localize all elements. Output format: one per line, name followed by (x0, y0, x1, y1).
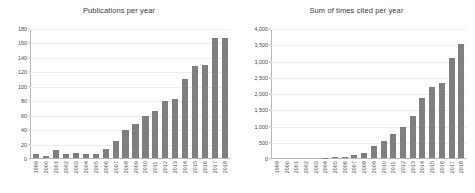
x-tick-slot: 2008 (359, 159, 369, 173)
x-axis-tick-label: 2007 (351, 161, 357, 173)
x-axis-tick-label: 2013 (410, 161, 416, 173)
citations-per-year-panel: Sum of times cited per year 05001,0001,5… (238, 0, 475, 193)
y-axis-tick-mark (269, 45, 271, 46)
publications-bar-series (31, 29, 230, 158)
publications-per-year-panel: Publications per year 020406080100120140… (0, 0, 238, 193)
x-tick-slot: 2017 (210, 159, 220, 173)
y-axis-tick-mark (269, 159, 271, 160)
bar-slot (170, 29, 180, 158)
bar (429, 87, 435, 158)
citations-x-tick-labels: 1999200020012002200320042005200620072008… (272, 159, 466, 173)
x-axis-tick-label: 2008 (123, 161, 129, 173)
bar-slot (180, 29, 190, 158)
bar-slot (359, 29, 369, 158)
x-axis-tick-label: 2000 (43, 161, 49, 173)
x-axis-tick-label: 2003 (73, 161, 79, 173)
bar (53, 150, 59, 158)
x-axis-tick-label: 2000 (284, 161, 290, 173)
x-tick-slot: 2010 (379, 159, 389, 173)
bar (63, 154, 69, 158)
x-tick-slot: 2006 (340, 159, 350, 173)
x-tick-slot: 2017 (447, 159, 457, 173)
bar-slot (350, 29, 360, 158)
x-tick-slot: 2009 (369, 159, 379, 173)
bar (202, 65, 208, 158)
x-tick-slot: 2005 (330, 159, 340, 173)
x-tick-slot: 2002 (61, 159, 71, 173)
x-tick-slot: 2009 (131, 159, 141, 173)
x-axis-tick-label: 2011 (390, 161, 396, 173)
x-axis-tick-label: 2016 (202, 161, 208, 173)
x-tick-slot: 2012 (160, 159, 170, 173)
bar (113, 141, 119, 158)
x-tick-slot: 2007 (111, 159, 121, 173)
bar (73, 153, 79, 158)
y-axis-tick-mark (269, 29, 271, 30)
y-axis-tick-mark (28, 86, 30, 87)
bar (132, 124, 138, 158)
y-axis-tick-mark (269, 77, 271, 78)
publications-chart-title: Publications per year (0, 6, 238, 15)
bar (83, 154, 89, 158)
bar-slot (220, 29, 230, 158)
bar-slot (379, 29, 389, 158)
bar (351, 155, 357, 158)
bar-slot (408, 29, 418, 158)
bar-slot (272, 29, 282, 158)
bar (371, 146, 377, 158)
x-axis-tick-label: 1999 (33, 161, 39, 173)
bar (152, 111, 158, 158)
x-tick-slot: 2004 (321, 159, 331, 173)
y-axis-tick-mark (269, 94, 271, 95)
bar-slot (447, 29, 457, 158)
bar-slot (121, 29, 131, 158)
bar-slot (340, 29, 350, 158)
bar-slot (160, 29, 170, 158)
bar-slot (61, 29, 71, 158)
x-tick-slot: 2006 (101, 159, 111, 173)
x-tick-slot: 2000 (282, 159, 292, 173)
x-axis-tick-label: 2015 (192, 161, 198, 173)
x-axis-tick-label: 2008 (361, 161, 367, 173)
bar (122, 130, 128, 158)
y-axis-tick-mark (269, 61, 271, 62)
bar (222, 38, 228, 158)
x-axis-tick-label: 2006 (342, 161, 348, 173)
bar (43, 156, 49, 158)
y-axis-tick-mark (28, 144, 30, 145)
bar-slot (190, 29, 200, 158)
bar (449, 58, 455, 158)
bar-slot (140, 29, 150, 158)
x-tick-slot: 2014 (180, 159, 190, 173)
bar (172, 99, 178, 158)
bar-slot (427, 29, 437, 158)
x-tick-slot: 1999 (31, 159, 41, 173)
x-axis-tick-label: 2013 (172, 161, 178, 173)
bar (142, 116, 148, 158)
bar (332, 157, 338, 158)
bar-slot (71, 29, 81, 158)
bar-slot (101, 29, 111, 158)
x-axis-tick-label: 2005 (332, 161, 338, 173)
y-axis-tick-mark (269, 142, 271, 143)
x-axis-tick-label: 2012 (400, 161, 406, 173)
x-axis-tick-label: 2009 (371, 161, 377, 173)
bar (361, 153, 367, 158)
bar-slot (311, 29, 321, 158)
bar (419, 98, 425, 158)
x-axis-tick-label: 2007 (113, 161, 119, 173)
x-axis-tick-label: 2010 (142, 161, 148, 173)
x-axis-tick-label: 2017 (449, 161, 455, 173)
bar-slot (150, 29, 160, 158)
y-axis-tick-mark (28, 101, 30, 102)
x-axis-tick-label: 2001 (293, 161, 299, 173)
x-tick-slot: 2003 (71, 159, 81, 173)
bar-slot (301, 29, 311, 158)
x-axis-tick-label: 2002 (63, 161, 69, 173)
y-axis-tick-mark (28, 43, 30, 44)
x-tick-slot: 2018 (220, 159, 230, 173)
bar (162, 101, 168, 158)
x-axis-tick-label: 2004 (322, 161, 328, 173)
x-axis-tick-label: 2018 (222, 161, 228, 173)
bar (93, 154, 99, 158)
